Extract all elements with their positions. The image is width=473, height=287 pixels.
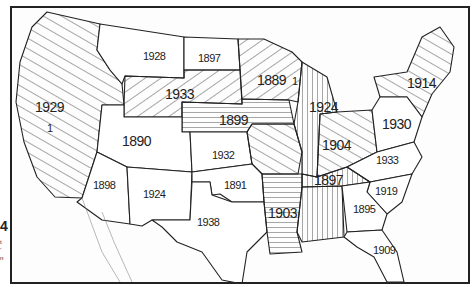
map-frame: 1928 1897 1933 1889 1899 1929 1890 1932 …	[10, 6, 470, 284]
caption-line: n	[0, 254, 8, 262]
label-new-mexico: 1924	[143, 188, 166, 200]
label-tennessee: 1897	[314, 172, 344, 188]
label-minnesota-secondary: 1	[292, 75, 298, 87]
caption-line: t	[0, 238, 8, 246]
label-pacific-west: 1929	[35, 99, 65, 115]
label-colorado-utah: 1890	[122, 133, 152, 149]
label-oklahoma: 1891	[224, 179, 247, 191]
figure-number: 4	[0, 218, 8, 234]
label-montana: 1928	[143, 50, 166, 62]
label-florida: 1909	[373, 244, 396, 256]
label-texas: 1938	[197, 216, 220, 228]
label-pacific-secondary: 1	[47, 122, 53, 134]
region-florida	[344, 230, 404, 282]
caption-line: ’	[0, 246, 8, 254]
label-northeast: 1914	[407, 75, 437, 91]
label-georgia: 1895	[353, 203, 376, 215]
region-minnesota-wisconsin	[238, 39, 302, 102]
label-virginia-north-carolina: 1933	[376, 154, 399, 166]
label-arizona: 1898	[93, 179, 116, 191]
label-arkansas-louisiana: 1903	[268, 205, 298, 221]
us-map: 1928 1897 1933 1889 1899 1929 1890 1932 …	[12, 8, 468, 282]
label-minnesota-wisconsin: 1889	[257, 72, 287, 88]
label-wyoming-south-dakota: 1933	[165, 86, 195, 102]
figure-caption-fragment: t ’ n	[0, 238, 8, 262]
label-ohio-indiana: 1904	[322, 137, 352, 153]
label-north-dakota: 1897	[198, 52, 221, 64]
label-south-carolina: 1919	[375, 185, 398, 197]
label-nebraska-iowa: 1899	[219, 112, 249, 128]
label-kansas: 1932	[212, 149, 235, 161]
label-mid-atlantic: 1930	[382, 116, 412, 132]
region-alabama-mississippi	[297, 186, 344, 242]
label-michigan-illinois: 1924	[309, 99, 339, 115]
